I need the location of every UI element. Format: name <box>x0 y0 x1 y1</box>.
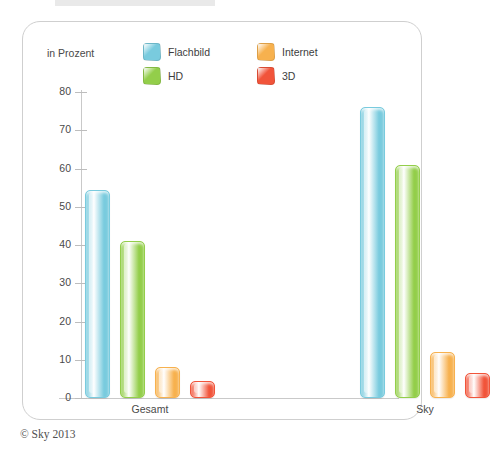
bar-gesamt-flachbild[interactable] <box>85 190 110 398</box>
chart-card: in Prozent Flachbild HD Internet 3D 0102… <box>22 21 422 420</box>
copyright-credit: © Sky 2013 <box>20 428 75 440</box>
bar-highlight <box>399 168 405 393</box>
bar-sky-hd[interactable] <box>395 165 420 398</box>
bar-sky-internet[interactable] <box>430 352 455 398</box>
bar-highlight <box>159 370 165 393</box>
category-label-sky: Sky <box>360 403 490 415</box>
category-label-gesamt: Gesamt <box>85 403 215 415</box>
bar-highlight <box>469 376 475 393</box>
scan-edge-artifact <box>55 0 215 6</box>
bar-highlight <box>89 193 95 393</box>
bar-sky-flachbild[interactable] <box>360 107 385 398</box>
bar-gesamt-internet[interactable] <box>155 367 180 398</box>
plot-area: 01020304050607080 GesamtSky <box>23 22 423 421</box>
bar-gesamt-hd[interactable] <box>120 241 145 398</box>
bar-highlight <box>194 384 200 393</box>
bars-layer <box>23 22 423 421</box>
bar-highlight <box>364 110 370 393</box>
bar-highlight <box>434 355 440 393</box>
bar-gesamt-3d[interactable] <box>190 381 215 398</box>
bar-sky-3d[interactable] <box>465 373 490 398</box>
bar-highlight <box>124 244 130 393</box>
